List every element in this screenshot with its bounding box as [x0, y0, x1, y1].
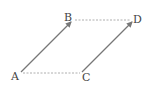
point-label-c: C [82, 71, 90, 84]
point-label-d: D [133, 13, 142, 26]
vector-a-b [21, 22, 71, 72]
vector-c-d [82, 22, 132, 72]
point-label-b: B [64, 11, 72, 24]
point-label-a: A [10, 70, 20, 83]
parallelogram-diagram: A B C D [0, 0, 152, 88]
